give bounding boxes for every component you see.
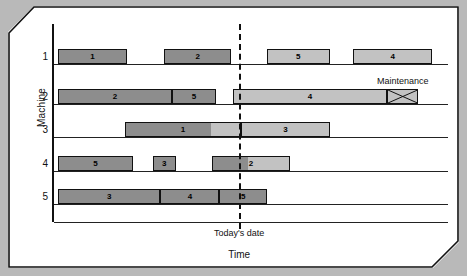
gantt-bar-machine-2-job-2[interactable]: 2 [58,89,172,104]
gantt-bar-machine-1-job-5[interactable]: 5 [267,49,330,64]
gantt-bar-job-label: 2 [196,52,200,61]
gantt-bar-machine-2-job-4[interactable]: 4 [233,89,387,104]
y-tick-label-machine-3: 3 [32,124,48,135]
gantt-bar-machine-5-job-5[interactable]: 5 [219,189,266,204]
gantt-bar-machine-3-job-1[interactable]: 1 [125,122,241,137]
gantt-bar-machine-4-job-3[interactable]: 3 [153,156,177,171]
y-tick-label-machine-2: 2 [32,91,48,102]
gantt-chart: Machine 12345 125425413532345 Today's da… [8,6,459,268]
gantt-bar-job-label: 4 [391,52,395,61]
gantt-bar-machine-5-job-4[interactable]: 4 [160,189,219,204]
gantt-bar-job-label: 1 [181,125,185,134]
machine-row-baseline [54,137,448,138]
gantt-bar-job-label: 5 [93,159,97,168]
y-tick-label-machine-5: 5 [32,191,48,202]
machine-row-baseline [54,171,448,172]
gantt-bar-machine-4-job-2[interactable]: 2 [212,156,291,171]
machine-row-baseline [54,64,448,65]
y-axis-line [52,24,54,222]
y-tick-label-machine-1: 1 [32,51,48,62]
gantt-bar-machine-1-job-1[interactable]: 1 [58,49,127,64]
maintenance-label: Maintenance [367,76,439,86]
gantt-bar-machine-1-job-4[interactable]: 4 [353,49,432,64]
x-axis-title: Time [179,249,299,260]
gantt-bar-machine-4-job-5[interactable]: 5 [58,156,133,171]
gantt-bar-job-label: 4 [188,192,192,201]
gantt-bar-machine-3-job-3[interactable]: 3 [241,122,330,137]
gantt-bar-progress-fill [213,157,248,170]
y-tick-label-machine-4: 4 [32,158,48,169]
gantt-bar-job-label: 3 [162,159,166,168]
gantt-bar-machine-2-job-5[interactable]: 5 [172,89,215,104]
gantt-bar-job-label: 3 [283,125,287,134]
gantt-bar-machine-5-job-3[interactable]: 3 [58,189,160,204]
today-date-label: Today's date [179,228,299,238]
gantt-bar-job-label: 2 [113,92,117,101]
gantt-bar-job-label: 5 [241,192,245,201]
machine-row-baseline [54,104,448,105]
machine-row-baseline [54,204,448,205]
gantt-bar-progress-fill [126,123,211,136]
gantt-bar-job-label: 5 [192,92,196,101]
gantt-bar-machine-1-job-2[interactable]: 2 [164,49,231,64]
maintenance-block [387,89,419,104]
x-axis-line [54,222,448,223]
gantt-bar-job-label: 3 [107,192,111,201]
gantt-bar-job-label: 4 [308,92,312,101]
gantt-bar-job-label: 2 [249,159,253,168]
gantt-bar-job-label: 1 [90,52,94,61]
gantt-bar-job-label: 5 [296,52,300,61]
maintenance-cross-icon [388,90,418,103]
